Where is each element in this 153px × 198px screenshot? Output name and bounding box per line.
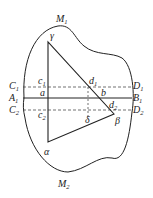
label-c2: c2 <box>38 109 46 121</box>
label-B1: B1 <box>133 92 142 104</box>
label-a: a <box>40 87 45 98</box>
label-D2: D2 <box>132 104 144 116</box>
label-m1: M1 <box>55 13 68 25</box>
diagram-canvas: M1 M2 γ α β C1 A1 C2 D1 B1 D2 c1 a c2 d1… <box>0 0 153 198</box>
label-C1: C1 <box>9 80 19 92</box>
label-beta: β <box>114 115 120 126</box>
label-gamma: γ <box>50 30 55 41</box>
label-alpha: α <box>44 146 50 157</box>
label-d2: d2 <box>109 99 118 111</box>
label-d1: d1 <box>89 75 97 87</box>
label-c1: c1 <box>38 75 46 87</box>
label-m2: M2 <box>57 178 70 190</box>
label-A1: A1 <box>8 92 18 104</box>
label-b: b <box>101 87 106 98</box>
label-C2: C2 <box>9 104 20 116</box>
region-outline <box>23 26 133 172</box>
label-delta: δ <box>85 114 90 125</box>
label-D1: D1 <box>132 80 143 92</box>
